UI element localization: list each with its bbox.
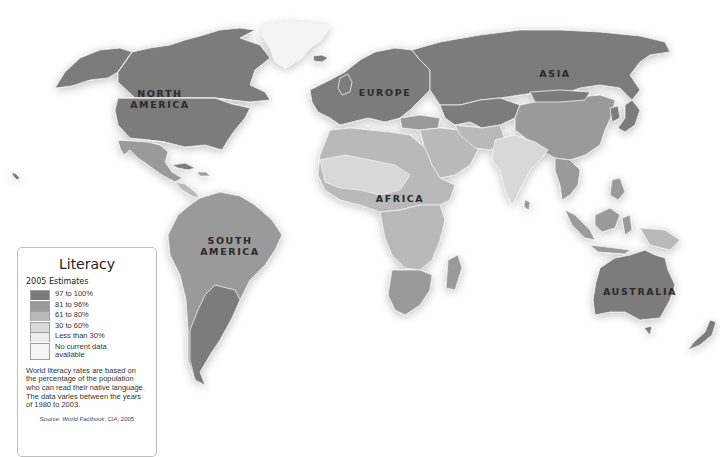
label-europe: EUROPE: [355, 87, 415, 98]
legend-title: Literacy: [26, 256, 148, 272]
region-madagascar: [446, 255, 462, 290]
legend-item: No current data available: [30, 343, 148, 361]
region-sumatra: [565, 210, 595, 240]
legend-item: Less than 30%: [30, 332, 148, 343]
region-hawaii: [12, 172, 20, 180]
label-north: NORTH: [120, 88, 200, 99]
label-south-america: SOUTH AMERICA: [190, 235, 270, 257]
region-hispaniola: [197, 172, 210, 176]
region-borneo: [595, 208, 620, 232]
region-mexico: [118, 140, 182, 182]
region-new-guinea: [640, 228, 680, 250]
label-america-sa: AMERICA: [190, 246, 270, 257]
legend-label: 81 to 96%: [55, 301, 89, 310]
legend-source: Source: World Factbook, CIA, 2005: [26, 416, 148, 422]
legend-label: 97 to 100%: [55, 290, 93, 299]
region-australia: [593, 250, 675, 320]
region-new-zealand: [688, 320, 716, 350]
region-korea: [610, 106, 620, 122]
region-cuba: [172, 163, 195, 170]
label-america: AMERICA: [120, 99, 200, 110]
region-iceland: [313, 55, 328, 62]
legend-swatch: [30, 311, 50, 321]
region-india: [492, 135, 548, 205]
source-suffix: , CIA, 2005: [104, 416, 134, 422]
legend-swatch: [30, 343, 50, 360]
legend-swatch: [30, 301, 50, 311]
legend-swatch: [30, 290, 50, 300]
source-title: World Factbook: [62, 416, 104, 422]
legend-box: Literacy 2005 Estimates 97 to 100% 81 to…: [17, 247, 157, 457]
legend-item: 81 to 96%: [30, 301, 148, 312]
region-central-america: [175, 182, 200, 198]
label-australia: AUSTRALIA: [595, 286, 685, 297]
legend-items: 97 to 100% 81 to 96% 61 to 80% 30 to 60%…: [30, 290, 148, 361]
region-sri-lanka: [524, 200, 530, 210]
label-asia: ASIA: [530, 68, 580, 79]
legend-label: 30 to 60%: [55, 322, 89, 331]
legend-label: Less than 30%: [55, 332, 105, 341]
legend-item: 61 to 80%: [30, 311, 148, 322]
region-mongolia: [530, 90, 590, 102]
legend-label: 61 to 80%: [55, 311, 89, 320]
region-southern-africa: [388, 270, 432, 315]
legend-swatch: [30, 322, 50, 332]
region-turkey: [400, 115, 440, 130]
region-philippines: [610, 178, 625, 200]
label-africa: AFRICA: [370, 193, 430, 204]
legend-item: 97 to 100%: [30, 290, 148, 301]
source-prefix: Source:: [40, 416, 62, 422]
region-se-asia: [555, 158, 580, 200]
label-south: SOUTH: [190, 235, 270, 246]
region-tasmania: [644, 326, 652, 335]
legend-label: No current data available: [55, 343, 115, 360]
region-java: [590, 245, 630, 254]
region-central-africa: [380, 205, 445, 270]
region-sulawesi: [622, 215, 632, 235]
legend-swatch: [30, 332, 50, 342]
legend-subtitle: 2005 Estimates: [26, 277, 148, 286]
legend-note: World literacy rates are based on the pe…: [26, 367, 148, 411]
region-japan: [618, 100, 640, 132]
label-north-america: NORTH AMERICA: [120, 88, 200, 110]
